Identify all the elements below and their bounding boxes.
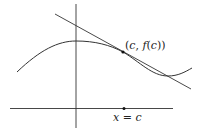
x-equals-c-point: [123, 107, 126, 110]
x-marker-label: x = c: [113, 112, 142, 123]
function-curve: [17, 41, 192, 76]
diagram-canvas: [0, 0, 203, 134]
tangent-diagram: (c, f(c)) x = c: [0, 0, 203, 134]
point-label: (c, f(c)): [125, 40, 166, 51]
